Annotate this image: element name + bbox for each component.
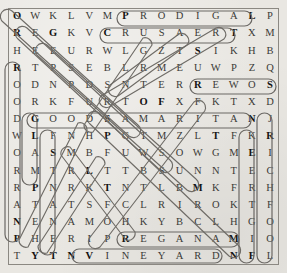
- grid-cell[interactable]: G: [243, 214, 261, 231]
- grid-cell[interactable]: Q: [261, 59, 279, 76]
- grid-cell[interactable]: P: [8, 231, 26, 248]
- grid-cell[interactable]: R: [62, 179, 80, 196]
- grid-cell[interactable]: L: [189, 128, 207, 145]
- grid-cell[interactable]: G: [207, 8, 225, 25]
- grid-cell[interactable]: R: [189, 248, 207, 265]
- grid-cell[interactable]: N: [62, 128, 80, 145]
- grid-cell[interactable]: K: [243, 128, 261, 145]
- grid-cell[interactable]: A: [171, 248, 189, 265]
- grid-cell[interactable]: D: [80, 77, 98, 94]
- grid-cell[interactable]: K: [44, 94, 62, 111]
- grid-cell[interactable]: B: [80, 145, 98, 162]
- grid-cell[interactable]: R: [62, 231, 80, 248]
- grid-cell[interactable]: T: [134, 77, 152, 94]
- grid-cell[interactable]: D: [171, 8, 189, 25]
- grid-cell[interactable]: E: [153, 77, 171, 94]
- grid-cell[interactable]: L: [207, 214, 225, 231]
- grid-cell[interactable]: S: [153, 162, 171, 179]
- grid-cell[interactable]: O: [98, 214, 116, 231]
- grid-cell[interactable]: W: [98, 42, 116, 59]
- grid-cell[interactable]: R: [116, 25, 134, 42]
- grid-cell[interactable]: X: [243, 94, 261, 111]
- grid-cell[interactable]: N: [62, 248, 80, 265]
- grid-cell[interactable]: E: [134, 248, 152, 265]
- grid-cell[interactable]: E: [189, 25, 207, 42]
- grid-cell[interactable]: U: [189, 59, 207, 76]
- grid-cell[interactable]: A: [207, 231, 225, 248]
- grid-cell[interactable]: S: [153, 25, 171, 42]
- grid-cell[interactable]: D: [26, 77, 44, 94]
- grid-cell[interactable]: D: [207, 248, 225, 265]
- grid-cell[interactable]: H: [26, 231, 44, 248]
- grid-cell[interactable]: S: [98, 77, 116, 94]
- grid-cell[interactable]: F: [98, 145, 116, 162]
- grid-cell[interactable]: K: [44, 8, 62, 25]
- grid-cell[interactable]: O: [44, 111, 62, 128]
- grid-cell[interactable]: W: [189, 145, 207, 162]
- grid-cell[interactable]: U: [134, 25, 152, 42]
- grid-cell[interactable]: G: [44, 25, 62, 42]
- grid-cell[interactable]: M: [153, 59, 171, 76]
- grid-cell[interactable]: Y: [26, 248, 44, 265]
- grid-cell[interactable]: I: [189, 111, 207, 128]
- grid-cell[interactable]: F: [98, 196, 116, 213]
- grid-cell[interactable]: R: [153, 196, 171, 213]
- grid-cell[interactable]: N: [44, 179, 62, 196]
- grid-cell[interactable]: P: [98, 128, 116, 145]
- grid-cell[interactable]: E: [44, 231, 62, 248]
- grid-cell[interactable]: K: [62, 25, 80, 42]
- grid-cell[interactable]: F: [243, 248, 261, 265]
- grid-cell[interactable]: A: [8, 196, 26, 213]
- grid-cell[interactable]: U: [116, 145, 134, 162]
- grid-cell[interactable]: T: [225, 94, 243, 111]
- grid-cell[interactable]: I: [207, 42, 225, 59]
- grid-cell[interactable]: P: [261, 8, 279, 25]
- letter-grid[interactable]: OWKLVMPRODIGALPREGKVCRUSAERTXMHEEURWLGZT…: [8, 8, 279, 265]
- grid-cell[interactable]: S: [189, 42, 207, 59]
- grid-cell[interactable]: T: [44, 162, 62, 179]
- grid-cell[interactable]: A: [171, 25, 189, 42]
- grid-cell[interactable]: R: [189, 196, 207, 213]
- grid-cell[interactable]: A: [153, 111, 171, 128]
- grid-cell[interactable]: M: [134, 111, 152, 128]
- grid-cell[interactable]: M: [26, 162, 44, 179]
- grid-cell[interactable]: K: [225, 196, 243, 213]
- grid-cell[interactable]: A: [225, 8, 243, 25]
- grid-cell[interactable]: R: [8, 162, 26, 179]
- grid-cell[interactable]: X: [171, 94, 189, 111]
- grid-cell[interactable]: H: [8, 42, 26, 59]
- grid-cell[interactable]: H: [116, 214, 134, 231]
- grid-cell[interactable]: F: [189, 94, 207, 111]
- grid-cell[interactable]: J: [261, 111, 279, 128]
- grid-cell[interactable]: R: [8, 25, 26, 42]
- grid-cell[interactable]: U: [62, 42, 80, 59]
- grid-cell[interactable]: F: [153, 94, 171, 111]
- grid-cell[interactable]: N: [225, 248, 243, 265]
- grid-cell[interactable]: N: [189, 162, 207, 179]
- grid-cell[interactable]: D: [8, 111, 26, 128]
- grid-cell[interactable]: M: [153, 128, 171, 145]
- grid-cell[interactable]: V: [80, 25, 98, 42]
- grid-cell[interactable]: A: [116, 111, 134, 128]
- grid-cell[interactable]: S: [153, 145, 171, 162]
- grid-cell[interactable]: A: [62, 214, 80, 231]
- grid-cell[interactable]: A: [171, 231, 189, 248]
- grid-cell[interactable]: O: [153, 8, 171, 25]
- grid-cell[interactable]: O: [8, 8, 26, 25]
- grid-cell[interactable]: N: [116, 248, 134, 265]
- grid-cell[interactable]: N: [243, 111, 261, 128]
- grid-cell[interactable]: T: [98, 162, 116, 179]
- grid-cell[interactable]: I: [261, 145, 279, 162]
- grid-cell[interactable]: R: [189, 77, 207, 94]
- grid-cell[interactable]: R: [171, 77, 189, 94]
- grid-cell[interactable]: R: [207, 25, 225, 42]
- grid-cell[interactable]: R: [8, 59, 26, 76]
- grid-cell[interactable]: L: [26, 128, 44, 145]
- grid-cell[interactable]: H: [243, 42, 261, 59]
- grid-cell[interactable]: O: [207, 196, 225, 213]
- grid-cell[interactable]: P: [116, 8, 134, 25]
- grid-cell[interactable]: D: [261, 94, 279, 111]
- grid-cell[interactable]: T: [116, 94, 134, 111]
- grid-cell[interactable]: G: [207, 145, 225, 162]
- grid-cell[interactable]: M: [261, 25, 279, 42]
